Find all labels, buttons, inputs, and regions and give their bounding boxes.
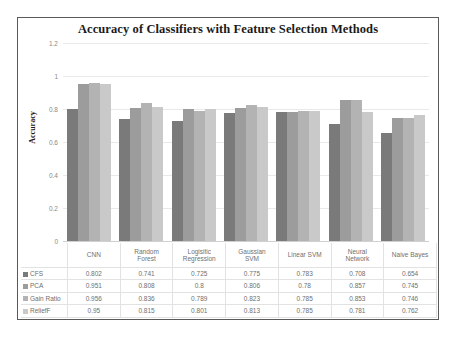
bar bbox=[257, 107, 268, 241]
table-column-header-line: Random bbox=[134, 248, 159, 255]
bar bbox=[205, 109, 216, 241]
legend-swatch-icon bbox=[23, 272, 28, 277]
bar-group bbox=[272, 43, 324, 241]
bars-layer bbox=[63, 43, 429, 241]
table-cell: 0.762 bbox=[384, 305, 437, 317]
bar bbox=[351, 100, 362, 241]
table-row: ReliefF0.950.8150.8010.8130.7850.7810.76… bbox=[21, 305, 437, 317]
table-column-header: CNN bbox=[68, 243, 121, 268]
table-cell: 0.741 bbox=[120, 268, 173, 280]
table-cell: 0.815 bbox=[120, 305, 173, 317]
plot-area: 1.210.80.60.40.20 bbox=[63, 43, 429, 241]
table-cell: 0.813 bbox=[226, 305, 279, 317]
table-cell: 0.801 bbox=[173, 305, 226, 317]
table-column-header-line: CNN bbox=[87, 251, 101, 258]
table-cell: 0.956 bbox=[68, 292, 121, 304]
table-body: CFS0.8020.7410.7250.7750.7830.7080.654PC… bbox=[21, 268, 437, 318]
legend-label: ReliefF bbox=[30, 307, 51, 314]
bar-group bbox=[377, 43, 429, 241]
table-cell: 0.808 bbox=[120, 280, 173, 292]
bar-group bbox=[324, 43, 376, 241]
y-axis-title: Accuracy bbox=[28, 98, 37, 158]
table-column-header-line: SVM bbox=[245, 255, 259, 262]
table-column-header: Linear SVM bbox=[278, 243, 331, 268]
bar bbox=[298, 111, 309, 241]
table-column-header-line: Logisitic bbox=[188, 248, 211, 255]
table-cell: 0.745 bbox=[384, 280, 437, 292]
table-corner-cell bbox=[21, 243, 68, 268]
table-cell: 0.836 bbox=[120, 292, 173, 304]
table-column-header-line: Regression bbox=[183, 255, 216, 262]
table-column-header-line: Linear SVM bbox=[288, 251, 322, 258]
bar bbox=[78, 84, 89, 241]
table-cell: 0.708 bbox=[331, 268, 384, 280]
bar bbox=[141, 103, 152, 241]
table-cell: 0.785 bbox=[278, 305, 331, 317]
table-cell: 0.78 bbox=[278, 280, 331, 292]
bar bbox=[340, 100, 351, 241]
chart-title: Accuracy of Classifiers with Feature Sel… bbox=[18, 22, 438, 37]
y-tick-label: 0.4 bbox=[49, 171, 58, 178]
bar bbox=[246, 105, 257, 241]
bar bbox=[329, 124, 340, 241]
y-tick-label: 1 bbox=[54, 72, 58, 79]
table-cell: 0.789 bbox=[173, 292, 226, 304]
bar bbox=[362, 112, 373, 241]
bar-group bbox=[168, 43, 220, 241]
table-row: CFS0.8020.7410.7250.7750.7830.7080.654 bbox=[21, 268, 437, 280]
bar-group bbox=[63, 43, 115, 241]
legend-swatch-icon bbox=[23, 284, 28, 289]
legend-entry: CFS bbox=[21, 268, 68, 280]
data-table: CNNRandomForestLogisiticRegressionGaussi… bbox=[21, 243, 437, 318]
legend-label: Gain Ratio bbox=[30, 295, 61, 302]
table-column-header-line: Naive Bayes bbox=[392, 251, 429, 258]
axis-baseline: 0 bbox=[63, 241, 429, 242]
table-cell: 0.781 bbox=[331, 305, 384, 317]
bar bbox=[67, 109, 78, 241]
legend-entry: Gain Ratio bbox=[21, 292, 68, 304]
table-column-header-line: Neural bbox=[348, 248, 367, 255]
legend-label: CFS bbox=[30, 270, 43, 277]
bar bbox=[224, 113, 235, 241]
legend-label: PCA bbox=[30, 282, 43, 289]
table-column-header-line: Gaussian bbox=[238, 248, 265, 255]
table-cell: 0.857 bbox=[331, 280, 384, 292]
legend-entry: ReliefF bbox=[21, 305, 68, 317]
bar bbox=[403, 118, 414, 241]
table-cell: 0.746 bbox=[384, 292, 437, 304]
table-cell: 0.785 bbox=[278, 292, 331, 304]
bar bbox=[89, 83, 100, 241]
y-tick-label: 0.6 bbox=[49, 139, 58, 146]
bar bbox=[119, 119, 130, 241]
table-cell: 0.783 bbox=[278, 268, 331, 280]
chart-container: Accuracy of Classifiers with Feature Sel… bbox=[17, 17, 439, 320]
table-cell: 0.775 bbox=[226, 268, 279, 280]
table-cell: 0.951 bbox=[68, 280, 121, 292]
legend-swatch-icon bbox=[23, 309, 28, 314]
bar bbox=[287, 112, 298, 241]
bar bbox=[183, 109, 194, 241]
bar bbox=[414, 115, 425, 241]
bar-group bbox=[220, 43, 272, 241]
table-column-header: GaussianSVM bbox=[226, 243, 279, 268]
table-header-row: CNNRandomForestLogisiticRegressionGaussi… bbox=[21, 243, 437, 268]
y-tick-label: 1.2 bbox=[49, 40, 58, 47]
bar bbox=[100, 84, 111, 241]
table-cell: 0.806 bbox=[226, 280, 279, 292]
table-column-header: NeuralNetwork bbox=[331, 243, 384, 268]
y-tick-label: 0.8 bbox=[49, 105, 58, 112]
table-column-header-line: Forest bbox=[137, 255, 155, 262]
table-cell: 0.654 bbox=[384, 268, 437, 280]
table-cell: 0.725 bbox=[173, 268, 226, 280]
bar bbox=[194, 111, 205, 241]
bar bbox=[172, 121, 183, 241]
table-cell: 0.8 bbox=[173, 280, 226, 292]
table-cell: 0.853 bbox=[331, 292, 384, 304]
bar bbox=[381, 133, 392, 241]
table-column-header-line: Network bbox=[345, 255, 369, 262]
table-column-header: LogisiticRegression bbox=[173, 243, 226, 268]
bar bbox=[276, 112, 287, 241]
table-row: Gain Ratio0.9560.8360.7890.8230.7850.853… bbox=[21, 292, 437, 304]
table-cell: 0.802 bbox=[68, 268, 121, 280]
bar bbox=[392, 118, 403, 241]
